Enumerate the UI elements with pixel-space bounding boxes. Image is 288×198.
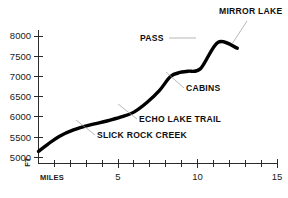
y-tick-label: 7000 [10,71,31,82]
x-tick-label: 15 [272,171,283,182]
annotation-label: SLICK ROCK CREEK [97,130,187,140]
x-axis-tick-labels: 51015 [115,171,282,182]
y-tick-label: 8000 [10,30,31,41]
x-axis: 51015 MILES [39,159,283,182]
y-axis: 5000550060006500700075008000 FT [10,30,43,167]
y-tick-label: 6000 [10,111,31,122]
x-tick-label: 5 [115,171,120,182]
y-tick-label: 6500 [10,91,31,102]
x-axis-title: MILES [40,173,64,182]
x-tick-label: 10 [192,171,203,182]
y-tick-label: 7500 [10,51,31,62]
annotation-label: PASS [140,33,164,43]
annotation-label: MIRROR LAKE [219,6,282,16]
chart-canvas: 5000550060006500700075008000 FT 51015 MI… [0,0,288,198]
elevation-profile-chart: 5000550060006500700075008000 FT 51015 MI… [0,0,288,198]
y-tick-label: 5500 [10,132,31,143]
annotation-label: CABINS [186,83,220,93]
annotation-label: ECHO LAKE TRAIL [139,114,221,124]
y-axis-tick-labels: 5000550060006500700075008000 [10,30,31,162]
annotation-leader-line [232,21,247,44]
annotation-labels: MIRROR LAKEPASSCABINSECHO LAKE TRAILSLIC… [97,6,282,140]
y-axis-title: FT [23,157,32,167]
